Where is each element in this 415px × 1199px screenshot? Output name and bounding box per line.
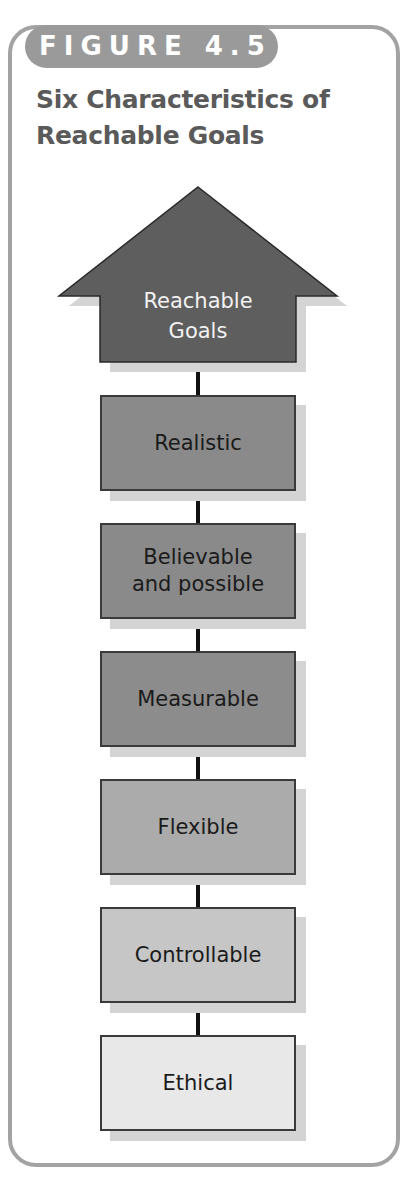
step-label: Ethical	[163, 1070, 234, 1097]
step-label-line-2: and possible	[132, 571, 264, 598]
step-box-realistic: Realistic	[100, 395, 296, 491]
step-box-flexible: Flexible	[100, 779, 296, 875]
step-box-ethical: Ethical	[100, 1035, 296, 1131]
reachable-goals-line-1: Reachable	[100, 286, 296, 316]
reachable-goals-label: Reachable Goals	[100, 286, 296, 346]
step-box-controllable: Controllable	[100, 907, 296, 1003]
step-label: Realistic	[154, 430, 242, 457]
step-label: Believable and possible	[132, 544, 264, 598]
step-label: Measurable	[137, 686, 259, 713]
step-box-believable-and-possible: Believable and possible	[100, 523, 296, 619]
step-label: Flexible	[158, 814, 239, 841]
step-label-line-1: Believable	[132, 544, 264, 571]
step-box-measurable: Measurable	[100, 651, 296, 747]
step-label: Controllable	[135, 942, 262, 969]
reachable-goals-line-2: Goals	[100, 316, 296, 346]
